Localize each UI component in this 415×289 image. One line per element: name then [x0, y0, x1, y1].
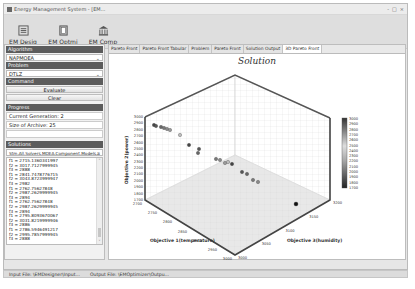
tick-label: 2400 [134, 153, 144, 157]
output-file-status: Output File: \EMOptimizer\Outpu... [90, 271, 169, 277]
3d-scatter-chart[interactable]: 1700180019002000210022002300240025002600… [0, 0, 415, 289]
tick-label: 2700 [134, 134, 144, 138]
tick-label: 2800 [163, 220, 173, 224]
tick-label: 3050 [262, 242, 272, 246]
data-point[interactable] [226, 160, 229, 163]
tick-label: 3000 [223, 257, 233, 261]
tick-label: 2800 [349, 128, 359, 132]
tick-label: 2900 [134, 121, 144, 125]
tick-label: 2600 [349, 138, 359, 142]
tick-label: 2500 [134, 147, 144, 151]
tick-label: 2500 [349, 144, 359, 148]
tick-label: 2700 [349, 133, 359, 137]
tick-label: 2700 [133, 202, 143, 206]
tick-label: 2750 [148, 211, 158, 215]
tick-label: 3150 [309, 215, 319, 219]
data-point[interactable] [187, 143, 190, 146]
data-point[interactable] [168, 128, 171, 131]
tick-label: 2950 [208, 248, 218, 252]
tick-label: 3000 [349, 117, 359, 121]
data-point[interactable] [256, 180, 259, 183]
tick-label: 3100 [286, 229, 296, 233]
tick-label: 2300 [349, 154, 359, 158]
colorbar-ticks: 3000290028002700260025002400230022002100… [349, 117, 359, 190]
data-point[interactable] [197, 147, 200, 150]
tick-label: 1900 [349, 175, 359, 179]
tick-label: 1700 [349, 186, 359, 190]
tick-label: 1800 [349, 181, 359, 185]
tick-label: 2800 [134, 128, 144, 132]
tick-label: 2200 [349, 159, 359, 163]
data-point[interactable] [154, 124, 157, 127]
tick-label: 2100 [134, 172, 144, 176]
data-point[interactable] [196, 151, 199, 154]
data-point[interactable] [178, 133, 181, 136]
data-point[interactable] [294, 202, 298, 206]
y-axis-label: Objective 3(humidity) [287, 238, 342, 243]
z-axis-label: Objective 2(power) [124, 136, 129, 185]
tick-label: 2000 [134, 179, 144, 183]
tick-label: 2000 [349, 170, 359, 174]
colorbar [342, 118, 347, 188]
tick-label: 2300 [134, 160, 144, 164]
tick-label: 2400 [349, 149, 359, 153]
tick-label: 2850 [178, 230, 188, 234]
data-point[interactable] [240, 170, 243, 173]
tick-label: 3000 [134, 115, 144, 119]
tick-label: 3000 [238, 256, 248, 260]
data-point[interactable] [251, 178, 254, 181]
z-axis-ticks: 1700180019002000210022002300240025002600… [134, 115, 144, 202]
tick-label: 2600 [134, 141, 144, 145]
tick-label: 1800 [134, 192, 144, 196]
status-bar: Input File: \EMDesigner\Input... Output … [3, 270, 408, 278]
tick-label: 2900 [349, 122, 359, 126]
data-point[interactable] [245, 172, 248, 175]
tick-label: 1900 [134, 185, 144, 189]
data-point[interactable] [218, 158, 221, 161]
tick-label: 3200 [333, 201, 343, 205]
input-file-status: Input File: \EMDesigner\Input... [9, 271, 80, 277]
x-axis-label: Objective 1(temperature) [150, 238, 215, 243]
tick-label: 2200 [134, 166, 144, 170]
tick-label: 2100 [349, 165, 359, 169]
data-point[interactable] [230, 162, 233, 165]
data-point[interactable] [214, 157, 217, 160]
